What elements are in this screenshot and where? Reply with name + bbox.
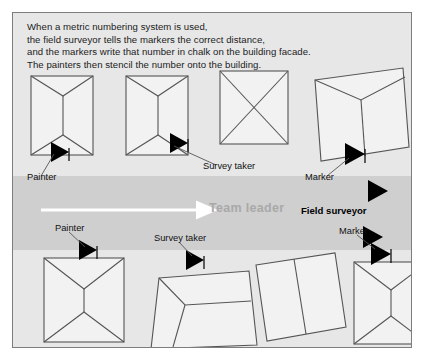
intro-paragraph: When a metric numbering system is used, … xyxy=(27,21,357,71)
building-bottom-4 xyxy=(354,262,411,344)
building-bottom-2 xyxy=(151,271,257,347)
label-survey-taker-bottom: Survey taker xyxy=(154,233,206,243)
label-painter-top: Painter xyxy=(27,172,56,182)
building-top-1 xyxy=(31,76,93,155)
label-marker-top: Marker xyxy=(305,172,334,182)
diagram-frame: When a metric numbering system is used, … xyxy=(12,12,412,348)
label-marker-bottom: Marker xyxy=(339,226,368,236)
label-survey-taker-top: Survey taker xyxy=(203,161,255,171)
building-top-4 xyxy=(315,68,409,161)
building-top-3 xyxy=(220,71,288,144)
label-field-surveyor: Field surveyor xyxy=(301,206,367,216)
building-bottom-3 xyxy=(256,253,346,341)
building-bottom-1 xyxy=(44,258,124,342)
figure-canvas: When a metric numbering system is used, … xyxy=(0,0,424,363)
label-team-leader: Team leader xyxy=(209,203,284,213)
label-painter-bottom: Painter xyxy=(55,223,84,233)
